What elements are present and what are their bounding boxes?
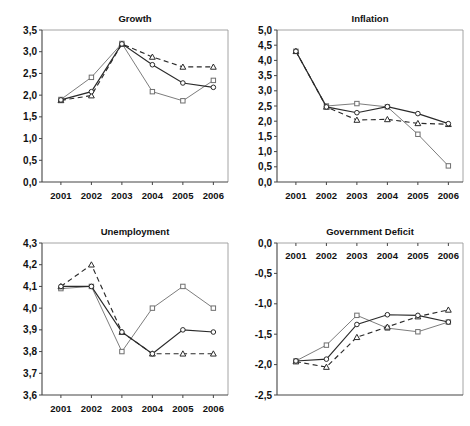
data-point-circle	[446, 320, 451, 325]
y-tick-label: 4,2	[23, 259, 37, 270]
series-line-circle	[61, 286, 213, 353]
x-tick-label: 2006	[438, 190, 459, 201]
data-point-triangle	[445, 307, 451, 312]
data-point-circle	[324, 105, 329, 110]
data-point-circle	[294, 359, 299, 364]
chart-title: Growth	[118, 13, 151, 24]
x-tick-label: 2002	[81, 190, 102, 201]
data-point-circle	[89, 284, 94, 289]
data-point-circle	[446, 121, 451, 126]
x-tick-label: 2002	[316, 190, 337, 201]
data-point-square	[120, 349, 124, 353]
data-point-circle	[385, 104, 390, 109]
chart-svg-inflation: Inflation0,00,51,01,52,02,53,03,54,04,55…	[235, 0, 470, 213]
series-line-triangle	[61, 44, 213, 100]
x-tick-label: 2003	[111, 403, 132, 414]
data-point-square	[150, 89, 154, 93]
data-point-triangle	[354, 334, 360, 339]
y-tick-label: 1,0	[23, 133, 37, 144]
y-tick-label: 2,5	[258, 101, 272, 112]
y-tick-label: 1,5	[23, 111, 37, 122]
data-point-circle	[120, 330, 125, 335]
series-line-circle	[296, 51, 448, 123]
y-tick-label: 0,0	[258, 177, 272, 188]
x-tick-label: 2001	[50, 190, 72, 201]
data-point-circle	[416, 111, 421, 116]
x-tick-label: 2003	[346, 250, 367, 261]
series-line-triangle	[296, 310, 448, 367]
data-point-circle	[294, 49, 299, 54]
data-point-square	[181, 99, 185, 103]
data-point-circle	[181, 81, 186, 86]
data-point-circle	[324, 357, 329, 362]
y-tick-label: 3,0	[23, 46, 37, 57]
y-tick-label: 1,0	[258, 146, 272, 157]
series-line-triangle	[296, 51, 448, 124]
chart-svg-government-deficit: Government Deficit0,0-0,5-1,0-1,5-2,0-2,…	[235, 213, 470, 426]
data-point-triangle	[210, 64, 216, 69]
y-tick-label: 0,0	[23, 177, 37, 188]
x-tick-label: 2005	[407, 250, 429, 261]
x-tick-label: 2003	[346, 190, 367, 201]
x-tick-label: 2006	[203, 190, 224, 201]
data-point-circle	[181, 328, 186, 333]
chart-title: Inflation	[352, 13, 389, 24]
data-point-circle	[385, 312, 390, 317]
y-tick-label: 3,9	[23, 324, 37, 335]
data-point-circle	[355, 110, 360, 115]
y-tick-label: -2,0	[255, 359, 273, 370]
data-point-circle	[89, 89, 94, 94]
data-point-square	[89, 75, 93, 79]
series-line-square	[61, 43, 213, 100]
x-tick-label: 2001	[285, 190, 307, 201]
chart-panel-government-deficit: Government Deficit0,0-0,5-1,0-1,5-2,0-2,…	[235, 213, 470, 426]
y-tick-label: -2,5	[255, 390, 273, 401]
chart-panel-unemployment: Unemployment3,63,73,83,94,04,14,24,32001…	[0, 213, 235, 426]
chart-svg-unemployment: Unemployment3,63,73,83,94,04,14,24,32001…	[0, 213, 235, 426]
x-tick-label: 2002	[316, 250, 337, 261]
data-point-square	[324, 343, 328, 347]
data-point-circle	[355, 322, 360, 327]
chart-panel-growth: Growth0,00,51,01,52,02,53,03,52001200220…	[0, 0, 235, 213]
data-point-square	[211, 306, 215, 310]
y-tick-label: 2,0	[258, 116, 272, 127]
y-tick-label: -1,5	[255, 329, 273, 340]
x-tick-label: 2005	[407, 190, 429, 201]
y-tick-label: 1,5	[258, 131, 272, 142]
data-point-square	[446, 164, 450, 168]
chart-title: Unemployment	[101, 226, 170, 237]
x-tick-label: 2004	[377, 250, 399, 261]
series-line-circle	[61, 44, 213, 100]
x-tick-label: 2004	[142, 190, 164, 201]
chart-svg-growth: Growth0,00,51,01,52,02,53,03,52001200220…	[0, 0, 235, 213]
data-point-square	[211, 78, 215, 82]
data-point-square	[355, 101, 359, 105]
figure-grid: Growth0,00,51,01,52,02,53,03,52001200220…	[0, 0, 470, 426]
y-tick-label: 3,5	[23, 25, 37, 36]
y-tick-label: 4,5	[258, 40, 272, 51]
data-point-circle	[59, 98, 64, 103]
x-tick-label: 2003	[111, 190, 132, 201]
x-tick-label: 2001	[285, 250, 307, 261]
y-tick-label: 4,0	[258, 55, 272, 66]
y-tick-label: 0,0	[258, 238, 272, 249]
x-tick-label: 2005	[172, 403, 194, 414]
data-point-circle	[150, 62, 155, 67]
data-point-square	[181, 284, 185, 288]
chart-title: Government Deficit	[326, 226, 414, 237]
data-point-square	[150, 306, 154, 310]
y-tick-label: 2,5	[23, 68, 37, 79]
data-point-square	[416, 132, 420, 136]
y-tick-label: 2,0	[23, 90, 37, 101]
y-tick-label: -0,5	[255, 268, 273, 279]
x-tick-label: 2004	[377, 190, 399, 201]
y-tick-label: 4,0	[23, 303, 37, 314]
x-tick-label: 2005	[172, 190, 194, 201]
y-tick-label: 3,6	[23, 390, 37, 401]
x-tick-label: 2001	[50, 403, 72, 414]
x-tick-label: 2006	[203, 403, 224, 414]
y-tick-label: 0,5	[258, 161, 272, 172]
series-line-square	[296, 51, 448, 166]
y-tick-label: 5,0	[258, 25, 272, 36]
chart-panel-inflation: Inflation0,00,51,01,52,02,53,03,54,04,55…	[235, 0, 470, 213]
